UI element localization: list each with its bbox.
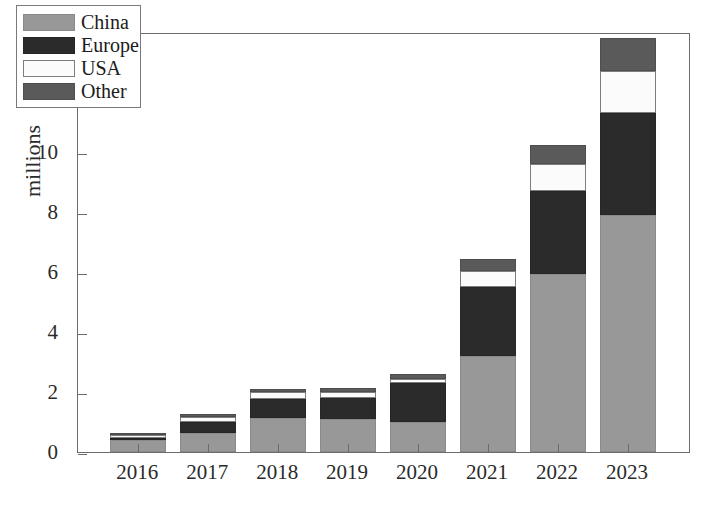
bar-segment-europe[interactable] — [110, 438, 166, 440]
legend-swatch-icon — [23, 14, 75, 31]
bar-segment-europe[interactable] — [250, 399, 306, 418]
chart-figure: 02468101214 millions 2016201720182019202… — [0, 0, 713, 513]
legend-swatch-icon — [23, 60, 75, 77]
x-axis-tick-label: 2021 — [466, 460, 508, 484]
x-axis-tick — [278, 444, 279, 452]
x-axis-tick — [138, 444, 139, 452]
chart-legend: ChinaEuropeUSAOther — [16, 5, 141, 108]
x-axis-tick — [348, 444, 349, 452]
x-axis-tick-label: 2017 — [186, 460, 228, 484]
x-axis-tick-label: 2018 — [256, 460, 298, 484]
legend-swatch-icon — [23, 37, 75, 54]
bar-segment-other[interactable] — [600, 38, 656, 71]
bar-group-2022[interactable] — [530, 145, 586, 453]
x-axis-tick-label: 2023 — [606, 460, 648, 484]
legend-item-china[interactable]: China — [23, 11, 134, 33]
y-axis-tick — [78, 334, 87, 335]
bar-segment-usa[interactable] — [530, 164, 586, 191]
bar-segment-china[interactable] — [530, 274, 586, 453]
bar-segment-other[interactable] — [390, 374, 446, 379]
legend-label: Europe — [81, 35, 139, 55]
bars-layer — [78, 34, 689, 452]
bar-segment-europe[interactable] — [180, 422, 236, 433]
bar-segment-usa[interactable] — [320, 392, 376, 398]
y-axis-tick — [78, 154, 87, 155]
bar-group-2019[interactable] — [320, 388, 376, 453]
legend-item-usa[interactable]: USA — [23, 57, 134, 79]
legend-item-other[interactable]: Other — [23, 80, 134, 102]
y-axis-tick — [78, 274, 87, 275]
x-axis-tick — [418, 444, 419, 452]
y-axis-tick — [78, 454, 87, 455]
legend-item-europe[interactable]: Europe — [23, 34, 134, 56]
x-axis-tick-label: 2022 — [536, 460, 578, 484]
bar-segment-europe[interactable] — [390, 383, 446, 422]
x-axis-tick-labels: 20162017201820192020202120222023 — [77, 460, 690, 494]
bar-segment-europe[interactable] — [320, 398, 376, 419]
legend-label: USA — [81, 58, 121, 78]
y-axis-tick-label: 0 — [48, 442, 59, 463]
bar-segment-usa[interactable] — [600, 71, 656, 113]
x-axis-tick-label: 2020 — [396, 460, 438, 484]
bar-segment-usa[interactable] — [110, 435, 166, 438]
x-axis-tick-label: 2019 — [326, 460, 368, 484]
x-axis-tick — [488, 444, 489, 452]
y-axis-tick-label: 6 — [48, 262, 59, 283]
y-axis-tick-label: 2 — [48, 382, 59, 403]
x-axis-tick — [208, 444, 209, 452]
bar-segment-other[interactable] — [460, 259, 516, 271]
y-axis-tick-label: 4 — [48, 322, 59, 343]
y-axis-tick — [78, 214, 87, 215]
bar-group-2020[interactable] — [390, 374, 446, 452]
y-axis-tick-label: 8 — [48, 202, 59, 223]
x-axis-tick — [558, 444, 559, 452]
x-axis-tick — [628, 444, 629, 452]
bar-segment-usa[interactable] — [180, 417, 236, 422]
legend-swatch-icon — [23, 83, 75, 100]
bar-segment-europe[interactable] — [600, 113, 656, 215]
bar-segment-china[interactable] — [460, 356, 516, 452]
bar-segment-other[interactable] — [180, 414, 236, 417]
y-axis-tick — [78, 394, 87, 395]
bar-segment-other[interactable] — [530, 145, 586, 165]
bar-group-2018[interactable] — [250, 389, 306, 452]
plot-area — [77, 33, 690, 453]
bar-segment-usa[interactable] — [460, 271, 516, 288]
bar-segment-usa[interactable] — [390, 379, 446, 384]
bar-segment-europe[interactable] — [460, 287, 516, 356]
x-axis-tick-label: 2016 — [116, 460, 158, 484]
bar-segment-usa[interactable] — [250, 392, 306, 399]
legend-label: Other — [81, 81, 127, 101]
bar-segment-china[interactable] — [600, 215, 656, 452]
bar-group-2021[interactable] — [460, 259, 516, 453]
legend-label: China — [81, 12, 129, 32]
bar-group-2023[interactable] — [600, 38, 656, 452]
bar-segment-other[interactable] — [110, 433, 166, 435]
bar-segment-other[interactable] — [320, 388, 376, 392]
bar-segment-other[interactable] — [250, 389, 306, 392]
bar-segment-europe[interactable] — [530, 191, 586, 274]
